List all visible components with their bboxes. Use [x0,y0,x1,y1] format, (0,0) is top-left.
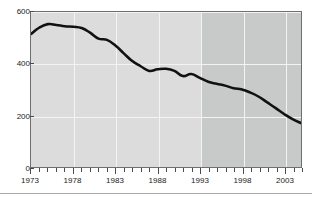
y-axis-label-400: 400 [4,59,30,68]
x-axis-tick-1983 [115,168,116,174]
x-axis-tick-2004 [294,168,295,172]
x-axis-tick-2005 [302,168,303,172]
x-axis-tick-1998 [243,168,244,174]
x-axis-tick-1985 [132,168,133,172]
x-axis-label-1993: 1993 [191,176,209,185]
x-axis-tick-1979 [81,168,82,172]
y-axis-label-0: 0 [4,164,30,173]
x-axis-label-1998: 1998 [234,176,252,185]
x-axis-label-1973: 1973 [21,176,39,185]
cropped-title-remnant [8,0,128,4]
x-axis-tick-1996 [226,168,227,172]
x-axis-labels: 1973197819831988199319982003 [30,176,302,188]
x-axis-tick-1980 [90,168,91,172]
x-axis-label-1988: 1988 [149,176,167,185]
x-axis-tick-1988 [158,168,159,174]
x-axis-tick-1982 [107,168,108,172]
x-axis-tick-1978 [73,168,74,174]
x-axis-tick-1992 [192,168,193,172]
x-axis-tick-1977 [64,168,65,172]
x-axis-tick-2000 [260,168,261,172]
x-axis-tick-1994 [209,168,210,172]
plot-area [30,11,302,168]
y-axis-tick-400 [30,63,34,64]
x-axis-tick-1995 [217,168,218,172]
y-axis-tick-200 [30,116,34,117]
x-axis-tick-1987 [149,168,150,172]
x-axis-tick-1986 [141,168,142,172]
figure-bottom-rule [0,193,312,194]
x-axis-ticks [30,168,302,175]
x-axis-tick-1993 [200,168,201,174]
x-axis-tick-2001 [268,168,269,172]
y-axis-tick-600 [30,11,34,12]
x-axis-label-1978: 1978 [64,176,82,185]
x-axis-tick-1974 [39,168,40,172]
x-axis-tick-1973 [30,168,31,174]
y-axis-label-600: 600 [4,7,30,16]
x-axis-tick-1990 [175,168,176,172]
x-axis-tick-1991 [183,168,184,172]
x-axis-label-1983: 1983 [106,176,124,185]
x-axis-tick-1997 [234,168,235,172]
x-axis-tick-1976 [56,168,57,172]
x-axis-tick-1989 [166,168,167,172]
y-axis: 0200400600 [0,11,30,168]
x-axis-tick-1975 [47,168,48,172]
line-series [31,12,301,167]
series-path-value [31,24,301,123]
x-axis-tick-2002 [277,168,278,172]
x-axis-tick-2003 [285,168,286,174]
x-axis-tick-1981 [98,168,99,172]
x-axis-tick-1999 [251,168,252,172]
x-axis-tick-1984 [124,168,125,172]
chart-figure: 0200400600 1973197819831988199319982003 [0,0,312,197]
y-axis-label-200: 200 [4,111,30,120]
x-axis-label-2003: 2003 [276,176,294,185]
